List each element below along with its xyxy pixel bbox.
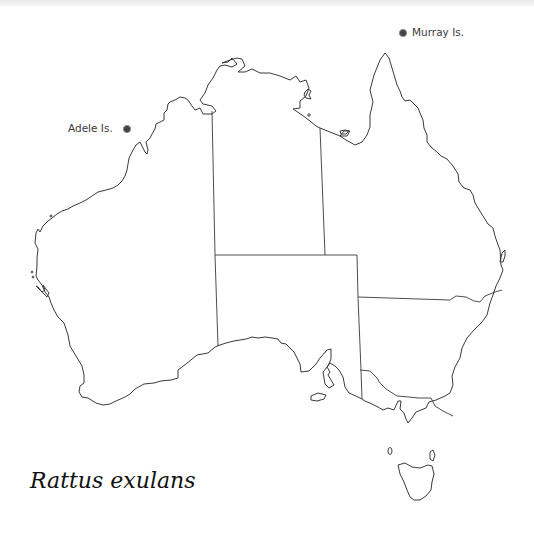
tasmania	[398, 463, 434, 500]
king-island	[388, 448, 392, 455]
island-dot	[32, 276, 34, 278]
island-dot	[50, 215, 52, 217]
border-qld-nsw	[358, 290, 502, 302]
island-dot	[31, 271, 33, 273]
mornington-island	[340, 130, 349, 134]
adele-island-marker-icon	[123, 125, 130, 132]
murray-island-marker-icon	[399, 29, 406, 36]
groote-eylandt	[304, 89, 311, 99]
species-title: Rattus exulans	[30, 468, 196, 493]
border-sa-east	[357, 255, 362, 399]
location-label-murray: Murray Is.	[412, 26, 464, 38]
australia-map	[0, 0, 534, 542]
location-label-adele: Adele Is.	[68, 122, 113, 134]
kangaroo-island	[311, 393, 326, 401]
border-wa	[212, 111, 218, 346]
flinders-island	[430, 450, 435, 461]
island-dot	[308, 114, 310, 116]
border-nt-qld	[320, 128, 325, 255]
border-nsw-vic	[360, 370, 453, 416]
mainland-coastline	[35, 53, 503, 423]
